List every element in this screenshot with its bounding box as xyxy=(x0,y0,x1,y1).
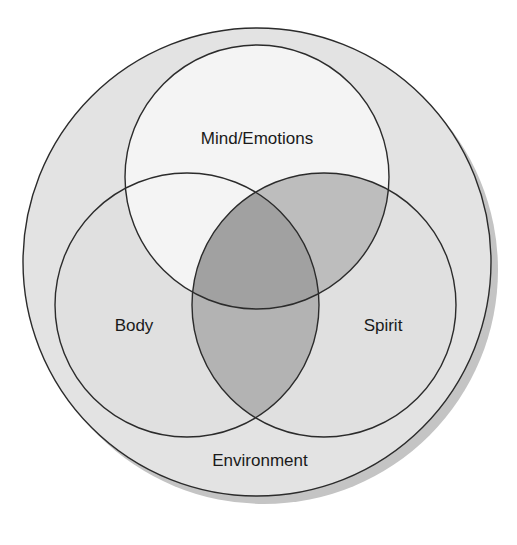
mind-emotions-label: Mind/Emotions xyxy=(201,129,313,148)
spirit-label: Spirit xyxy=(364,316,403,335)
venn-diagram: Mind/Emotions Body Spirit Environment xyxy=(0,0,517,545)
environment-label: Environment xyxy=(212,451,308,470)
body-label: Body xyxy=(115,316,154,335)
